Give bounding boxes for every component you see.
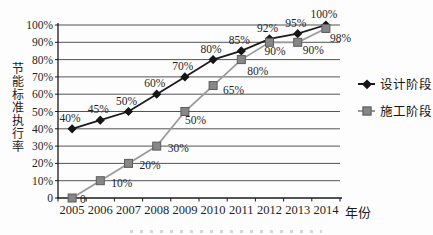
y-axis-title: 节能标准执行率 [10,62,22,153]
legend: 设计阶段 施工阶段 [358,74,432,120]
legend-line-sample-construction [358,110,375,112]
data-label: 50% [116,95,138,107]
data-label: 95% [285,17,307,29]
y-tick-label: 100% [26,19,53,31]
data-label: 100% [310,8,337,20]
legend-item-design: 设计阶段 [358,74,432,93]
data-point-diamond [209,55,218,64]
data-label: 40% [60,112,82,124]
square-marker-icon [362,106,371,115]
data-point-diamond [237,46,246,55]
data-label: 92% [257,22,279,34]
data-label: 70% [172,60,194,72]
data-label: 45% [88,103,110,115]
data-label: 65% [223,84,245,96]
data-point-square [125,159,133,167]
data-label: 90% [303,44,325,56]
cropped-caption-remnant [130,230,322,233]
data-label: 80% [247,65,268,77]
x-tick-label: 2007 [116,203,141,217]
y-tick-label: 80% [32,54,54,66]
x-tick-label: 2008 [144,203,169,217]
x-tick-label: 2009 [172,203,197,217]
data-point-square [237,56,245,64]
diamond-marker-icon [362,79,371,88]
data-label: 98% [330,32,352,44]
data-label: 30% [168,142,190,154]
data-point-diamond [180,72,189,81]
y-tick-label: 0 [47,192,53,204]
x-axis-unit-label: 年份 [345,202,371,221]
x-tick-label: 2005 [60,203,85,217]
y-tick-label: 20% [32,157,54,169]
y-tick-label: 90% [32,36,54,48]
data-label: 60% [144,77,166,89]
y-tick-label: 10% [32,175,54,187]
data-label: 20% [140,159,162,171]
x-tick-label: 2012 [257,203,282,217]
x-tick-label: 2010 [201,203,226,217]
x-tick-label: 2014 [313,203,339,217]
data-point-diamond [152,90,161,99]
data-point-diamond [293,29,302,38]
y-tick-label: 30% [32,140,54,152]
data-point-square [96,177,104,185]
data-point-square [68,194,76,202]
data-label: 85% [229,34,251,46]
chart-figure: 010%20%30%40%50%60%70%80%90%100%20052006… [0,0,433,235]
data-label: 0 [80,193,86,205]
data-point-square [153,142,161,150]
data-point-square [322,24,330,32]
y-tick-label: 70% [32,71,54,83]
legend-label-construction: 施工阶段 [380,101,432,120]
x-tick-label: 2011 [229,203,254,217]
data-label: 80% [201,43,223,55]
legend-item-construction: 施工阶段 [358,101,432,120]
y-tick-label: 50% [32,106,54,118]
y-tick-label: 40% [32,123,54,135]
data-point-diamond [124,107,133,116]
x-tick-label: 2013 [285,203,310,217]
x-tick-label: 2006 [88,203,113,217]
legend-line-sample-design [358,83,375,85]
data-point-square [294,38,302,46]
data-point-diamond [96,116,105,125]
legend-label-design: 设计阶段 [380,74,432,93]
y-tick-label: 60% [32,88,54,100]
data-label: 50% [185,114,207,126]
data-label: 90% [265,45,287,57]
data-point-square [209,82,217,90]
data-label: 10% [111,177,133,189]
data-point-diamond [68,124,77,133]
